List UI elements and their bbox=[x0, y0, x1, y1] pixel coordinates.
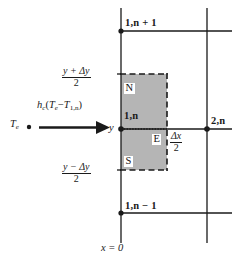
node-label-1-n: 1,n bbox=[124, 111, 138, 122]
half-dx-fraction: Δx 2 bbox=[170, 131, 182, 153]
node-label-2-n: 2,n bbox=[211, 116, 225, 127]
half-dx-numerator: Δx bbox=[170, 131, 182, 143]
half-dx-denominator: 2 bbox=[170, 143, 182, 154]
y-plus-half-dy-fraction: y + Δy 2 bbox=[62, 66, 91, 88]
control-volume-north-label: N bbox=[124, 83, 135, 94]
finite-difference-control-volume-figure: 1,n + 1 1,n 1,n − 1 2,n y + Δy 2 y − Δy … bbox=[0, 0, 242, 261]
node-label-1-n-plus-1: 1,n + 1 bbox=[125, 18, 157, 29]
node-dot-1-n bbox=[118, 126, 124, 132]
flux-t1n-subscript: 1,n bbox=[70, 104, 79, 112]
dimension-label-half-dx: Δx 2 bbox=[170, 131, 182, 153]
node-dot-1-n-plus-1 bbox=[118, 28, 123, 33]
fluid-temp-subscript: e bbox=[16, 123, 19, 131]
fluid-temperature-label: Te bbox=[10, 119, 19, 131]
axis-label-y-plus-half-dy: y + Δy 2 bbox=[62, 66, 91, 88]
diagram-canvas bbox=[0, 0, 242, 261]
axis-label-x-origin: x = 0 bbox=[101, 243, 123, 254]
y-plus-half-dy-denominator: 2 bbox=[62, 78, 91, 89]
convection-flux-label: hc(Te−T1,n) bbox=[37, 100, 82, 112]
flux-close-paren: ) bbox=[79, 99, 83, 110]
y-minus-half-dy-numerator: y − Δy bbox=[62, 162, 91, 174]
control-volume-south-label: S bbox=[124, 156, 133, 167]
control-volume-east-label: E bbox=[152, 134, 161, 145]
fluid-temp-dot bbox=[27, 125, 31, 129]
y-minus-half-dy-denominator: 2 bbox=[62, 174, 91, 185]
axis-label-y-minus-half-dy: y − Δy 2 bbox=[62, 162, 91, 184]
y-minus-half-dy-fraction: y − Δy 2 bbox=[62, 162, 91, 184]
node-dot-1-n-minus-1 bbox=[118, 210, 123, 215]
convection-arrow-icon bbox=[39, 121, 110, 134]
node-dot-2-n bbox=[204, 126, 210, 132]
y-plus-half-dy-numerator: y + Δy bbox=[62, 66, 91, 78]
axis-tick-label-y: y bbox=[109, 123, 114, 134]
node-label-1-n-minus-1: 1,n − 1 bbox=[125, 201, 157, 212]
